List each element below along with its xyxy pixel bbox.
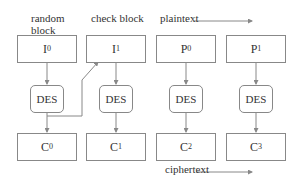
des-block-0: DES (30, 85, 64, 113)
block-I1: I1 (86, 35, 146, 63)
block-letter: P (251, 42, 258, 57)
block-letter: C (180, 140, 188, 155)
des-block-2: DES (169, 85, 203, 113)
block-C2: C2 (156, 133, 216, 161)
check-block-label: check block (91, 12, 144, 24)
plaintext-label: plaintext (160, 12, 199, 24)
block-letter: C (250, 140, 258, 155)
block-C0: C0 (17, 133, 77, 161)
block-letter: P (181, 42, 188, 57)
block-letter: C (110, 140, 118, 155)
block-letter: C (41, 140, 49, 155)
block-C3: C3 (226, 133, 286, 161)
block-P1: P1 (226, 35, 286, 63)
random-block-label: random block (31, 12, 65, 36)
random-block-label-line1: random (31, 12, 65, 24)
des-block-1: DES (99, 85, 133, 113)
block-P0: P0 (156, 35, 216, 63)
block-I0: I0 (17, 35, 77, 63)
des-block-3: DES (239, 85, 273, 113)
block-C1: C1 (86, 133, 146, 161)
ciphertext-label: ciphertext (165, 163, 209, 175)
